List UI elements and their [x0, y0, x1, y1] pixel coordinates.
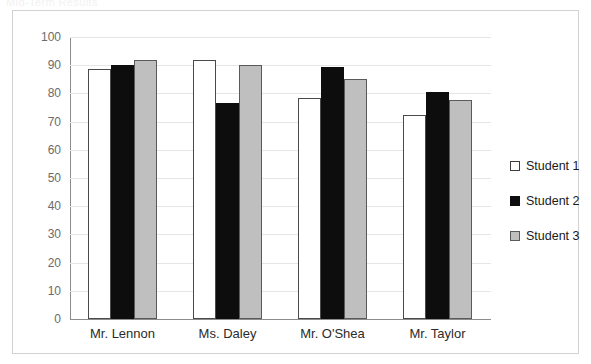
legend-label: Student 3 [526, 229, 580, 243]
legend-swatch-icon [510, 196, 520, 206]
y-axis-tick-label: 70 [17, 115, 61, 129]
y-axis-tick-label: 30 [17, 227, 61, 241]
y-axis-tick-label: 10 [17, 284, 61, 298]
legend-item-student-2[interactable]: Student 2 [510, 194, 580, 208]
bar-student-1-0 [88, 69, 111, 319]
legend-label: Student 2 [526, 194, 580, 208]
faint-header-text: Mid-Term Results [6, 0, 98, 8]
bar-student-3-2 [344, 79, 367, 319]
legend: Student 1Student 2Student 3 [510, 159, 580, 243]
y-axis-tick-label: 90 [17, 58, 61, 72]
y-axis-tick-label: 60 [17, 143, 61, 157]
bar-student-3-1 [239, 65, 262, 319]
y-axis-tick-label: 80 [17, 86, 61, 100]
legend-item-student-3[interactable]: Student 3 [510, 229, 580, 243]
y-axis-tick-label: 100 [17, 30, 61, 44]
y-axis-tick-label: 0 [17, 312, 61, 326]
bar-student-1-1 [193, 60, 216, 319]
bar-student-2-0 [111, 65, 134, 319]
legend-label: Student 1 [526, 159, 580, 173]
x-axis-tick-label: Mr. Lennon [70, 326, 175, 341]
bar-student-3-3 [449, 100, 472, 319]
chart-frame: 1009080706050403020100 Mr. LennonMs. Dal… [12, 10, 579, 354]
legend-swatch-icon [510, 161, 520, 171]
legend-item-student-1[interactable]: Student 1 [510, 159, 580, 173]
y-axis-tick-label: 40 [17, 199, 61, 213]
bar-student-2-3 [426, 92, 449, 319]
bar-student-2-2 [321, 67, 344, 319]
x-axis-line [70, 319, 491, 320]
gridline [70, 37, 491, 38]
y-axis-tick-label: 50 [17, 171, 61, 185]
legend-swatch-icon [510, 231, 520, 241]
bar-student-1-3 [403, 115, 426, 319]
x-axis-tick-label: Mr. Taylor [385, 326, 490, 341]
y-axis-tick-label: 20 [17, 256, 61, 270]
x-axis-tick-label: Ms. Daley [175, 326, 280, 341]
bar-student-1-2 [298, 98, 321, 319]
chart-screenshot: Mid-Term Results 1009080706050403020100 … [0, 0, 591, 364]
bar-student-3-0 [134, 60, 157, 319]
x-axis-tick-label: Mr. O'Shea [280, 326, 385, 341]
bar-student-2-1 [216, 103, 239, 319]
